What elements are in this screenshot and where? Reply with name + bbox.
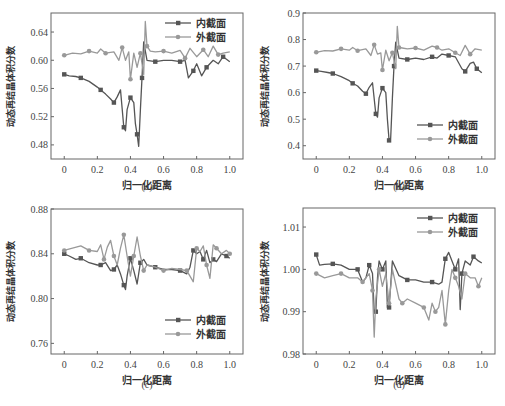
circle-marker — [122, 232, 127, 237]
y-axis-label: 动态再结晶体积分数 — [259, 45, 270, 127]
circle-marker — [214, 246, 219, 251]
legend-square-marker-icon — [176, 318, 180, 322]
panel-caption: (d) — [393, 379, 405, 391]
legend-label: 内截面 — [448, 212, 478, 224]
x-tick-label: 0.8 — [190, 359, 203, 370]
circle-marker — [387, 301, 392, 306]
square-marker — [98, 88, 102, 92]
y-tick-label: 0.8 — [288, 34, 301, 45]
circle-marker — [413, 46, 418, 51]
legend-label: 内截面 — [196, 314, 226, 326]
circle-marker — [339, 271, 344, 276]
circle-marker — [380, 68, 385, 73]
legend: 内截面外截面 — [417, 119, 478, 145]
x-tick-label: 1.0 — [224, 359, 237, 370]
square-marker — [331, 262, 335, 266]
circle-marker — [62, 53, 67, 58]
y-axis-label: 动态再结晶体积分数 — [5, 240, 16, 322]
y-tick-label: 0.7 — [288, 61, 301, 72]
square-marker — [62, 72, 66, 76]
circle-marker — [463, 271, 468, 276]
legend-square-marker-icon — [428, 123, 432, 127]
square-marker — [463, 69, 467, 73]
y-tick-label: 0.98 — [283, 349, 301, 360]
square-marker — [128, 95, 132, 99]
circle-marker — [131, 254, 136, 259]
circle-marker — [141, 268, 146, 273]
square-marker — [79, 76, 83, 80]
circle-marker — [397, 45, 402, 50]
square-marker — [204, 65, 208, 69]
chart-panel-b: 00.20.40.60.81.00.40.50.60.70.80.9归一化距离动… — [259, 8, 495, 194]
circle-marker — [161, 268, 166, 273]
legend-circle-marker-icon — [428, 137, 433, 142]
circle-marker — [194, 246, 199, 251]
y-tick-label: 0.76 — [31, 338, 49, 349]
square-marker — [350, 81, 354, 85]
legend-circle-marker-icon — [176, 35, 181, 40]
square-marker — [446, 53, 450, 57]
circle-marker — [227, 251, 232, 256]
x-tick-label: 0.2 — [343, 164, 356, 175]
circle-marker — [435, 45, 440, 50]
square-marker — [140, 76, 144, 80]
square-marker — [380, 86, 384, 90]
figure-canvas: 00.20.40.60.81.00.480.520.560.600.64归一化距… — [0, 0, 505, 406]
square-marker — [314, 68, 318, 72]
chart-panel-d: 00.20.40.60.81.00.980.991.001.01归一化距离动态再… — [259, 208, 495, 391]
x-tick-label: 0 — [314, 164, 319, 175]
legend-square-marker-icon — [428, 216, 432, 220]
circle-marker — [201, 47, 206, 52]
circle-marker — [138, 51, 143, 56]
legend: 内截面外截面 — [165, 17, 226, 43]
y-tick-label: 0.5 — [288, 114, 301, 125]
x-tick-label: 0.6 — [409, 359, 422, 370]
circle-marker — [216, 52, 221, 57]
square-marker — [405, 278, 409, 282]
square-marker — [135, 132, 139, 136]
circle-marker — [161, 49, 166, 54]
square-marker — [471, 254, 475, 258]
legend-label: 外截面 — [447, 226, 478, 238]
x-tick-label: 0 — [62, 359, 67, 370]
x-tick-label: 0.2 — [91, 359, 104, 370]
x-tick-label: 0.6 — [409, 164, 422, 175]
circle-marker — [128, 77, 133, 82]
y-axis-label: 动态再结晶体积分数 — [259, 240, 270, 322]
legend-circle-marker-icon — [176, 332, 181, 337]
legend-square-marker-icon — [176, 21, 180, 25]
square-marker — [405, 57, 409, 61]
square-marker — [364, 91, 368, 95]
x-tick-label: 0.8 — [442, 359, 455, 370]
x-tick-label: 0.4 — [124, 359, 137, 370]
chart-panel-a: 00.20.40.60.81.00.480.520.560.600.64归一化距… — [5, 13, 243, 193]
square-marker — [453, 267, 457, 271]
y-tick-label: 0.52 — [31, 111, 49, 122]
y-tick-label: 0.60 — [31, 55, 49, 66]
series-line-inner — [64, 42, 230, 146]
circle-marker — [355, 48, 360, 53]
square-marker — [79, 256, 83, 260]
legend: 内截面外截面 — [165, 314, 226, 340]
legend-label: 外截面 — [195, 31, 226, 43]
circle-marker — [102, 257, 107, 262]
circle-marker — [62, 248, 67, 253]
circle-marker — [314, 271, 319, 276]
circle-marker — [314, 50, 319, 55]
legend-label: 内截面 — [448, 119, 478, 131]
circle-marker — [184, 268, 189, 273]
square-marker — [314, 252, 318, 256]
circle-marker — [453, 276, 458, 281]
square-marker — [112, 267, 116, 271]
y-tick-label: 0.88 — [31, 204, 49, 215]
x-tick-label: 0.6 — [157, 164, 170, 175]
x-tick-label: 1.0 — [224, 164, 237, 175]
y-tick-label: 0.84 — [31, 248, 49, 259]
legend: 内截面外截面 — [417, 212, 478, 238]
square-marker — [430, 280, 434, 284]
circle-marker — [204, 263, 209, 268]
y-tick-label: 0.80 — [31, 293, 49, 304]
square-marker — [178, 59, 182, 63]
y-tick-label: 0.48 — [31, 139, 49, 150]
y-tick-label: 1.01 — [283, 222, 301, 233]
